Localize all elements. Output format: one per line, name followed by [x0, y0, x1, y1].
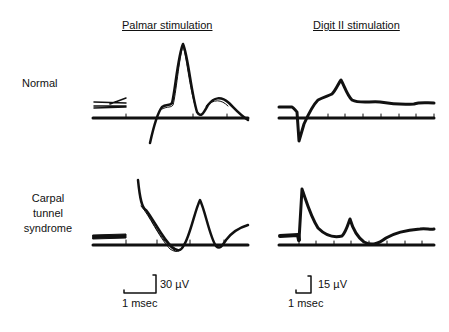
- scale-amplitude-digit: 15 µV: [318, 278, 347, 290]
- scale-bar-palmar: [124, 275, 156, 293]
- scale-time-digit: 1 msec: [288, 297, 323, 309]
- scale-time-palmar: 1 msec: [122, 297, 157, 309]
- scale-bar-digit: [296, 276, 311, 293]
- trace-cts-palmar: [93, 180, 248, 251]
- trace-normal-palmar: [93, 44, 248, 143]
- scale-amplitude-palmar: 30 µV: [160, 278, 189, 290]
- traces-figure: [0, 0, 449, 332]
- trace-normal-digit: [279, 80, 434, 141]
- trace-cts-digit: [279, 189, 434, 245]
